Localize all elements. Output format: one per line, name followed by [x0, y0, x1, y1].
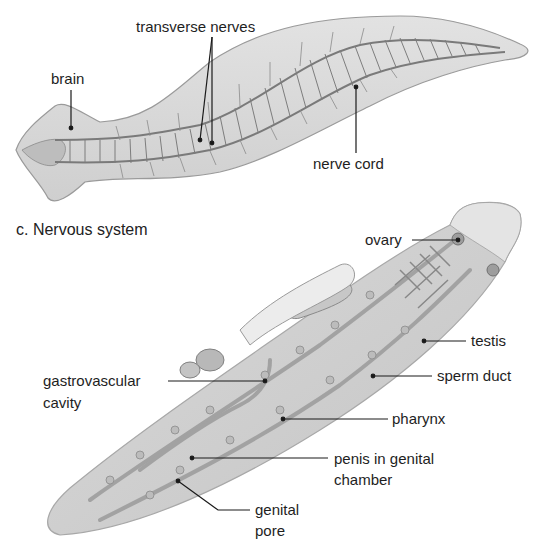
label-penis-1: penis in genital	[334, 450, 434, 467]
caption-nervous-system: c. Nervous system	[16, 221, 148, 239]
flatworm-diagram: brain transverse nerves nerve cord c. Ne…	[0, 0, 546, 547]
label-testis: testis	[471, 332, 506, 349]
label-genital-pore-1: genital	[255, 501, 299, 518]
label-brain: brain	[51, 70, 84, 87]
label-sperm-duct: sperm duct	[437, 367, 511, 384]
label-gastrovascular-cavity-2: cavity	[43, 394, 81, 411]
label-ovary: ovary	[365, 231, 402, 248]
label-gastrovascular-cavity-1: gastrovascular	[43, 372, 141, 389]
label-nerve-cord: nerve cord	[313, 155, 384, 172]
label-genital-pore-2: pore	[255, 522, 285, 539]
label-transverse-nerves: transverse nerves	[136, 18, 255, 35]
label-pharynx: pharynx	[392, 410, 445, 427]
nervous-system-worm	[16, 16, 528, 201]
label-penis-2: chamber	[334, 471, 392, 488]
